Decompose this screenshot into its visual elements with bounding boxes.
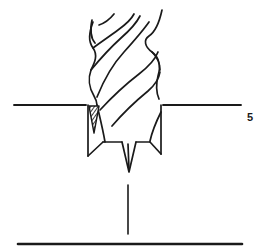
figure-root: 5: [0, 0, 259, 251]
left-cutting-corner: [88, 142, 103, 156]
web-slit: [128, 144, 129, 170]
right-cutting-corner: [150, 142, 161, 154]
helix-crest-notch: [99, 14, 114, 25]
figure-number-label: 5: [247, 112, 253, 123]
right-flank-curve: [150, 112, 161, 141]
helix-edge-3: [100, 52, 158, 110]
hatched-wedge: [89, 106, 99, 133]
helix-edge-1: [97, 22, 149, 97]
helix-edge-4: [112, 72, 160, 126]
twist-drill-drawing: [0, 0, 259, 251]
